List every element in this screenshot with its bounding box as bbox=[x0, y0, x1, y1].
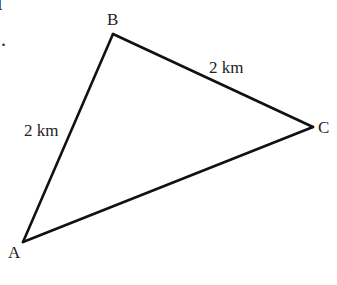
edge-label-bc: 2 km bbox=[209, 58, 243, 77]
edge-label-ab: 2 km bbox=[24, 121, 58, 140]
cropped-text-1: l bbox=[0, 0, 3, 14]
triangle-diagram: A B C 2 km 2 km l . bbox=[0, 0, 337, 285]
diagram-svg: A B C 2 km 2 km l . bbox=[0, 0, 337, 285]
vertex-label-b: B bbox=[107, 10, 118, 29]
vertex-label-a: A bbox=[8, 243, 21, 262]
vertex-label-c: C bbox=[318, 118, 329, 137]
cropped-text-2: . bbox=[1, 28, 6, 50]
edge-bc bbox=[113, 34, 313, 127]
